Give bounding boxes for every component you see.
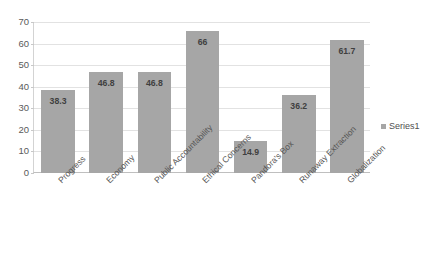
y-axis-tick-label: 70 — [3, 17, 29, 27]
y-axis-tick-label: 30 — [3, 103, 29, 113]
bar-slot: 46.8 — [138, 22, 172, 173]
chart-legend: Series1 — [381, 121, 420, 131]
x-axis-labels: ProgressEconomyPublic AccountabilityEthi… — [34, 174, 370, 259]
legend-square-icon — [381, 124, 386, 129]
bar-slot: 46.8 — [89, 22, 123, 173]
x-axis-label-slot: Runaway Extraction — [275, 174, 323, 259]
bar-value-label: 66 — [186, 37, 220, 47]
bar-slot: 38.3 — [41, 22, 75, 173]
x-axis-label-slot: Ethical Concerns — [178, 174, 226, 259]
y-axis-tick-label: 50 — [3, 60, 29, 70]
bar-value-label: 36.2 — [282, 101, 316, 111]
bar-value-label: 61.7 — [330, 46, 364, 56]
bar-value-label: 46.8 — [89, 78, 123, 88]
legend-entry-label[interactable]: Series1 — [389, 121, 420, 131]
y-axis-tick-label: 10 — [3, 146, 29, 156]
x-axis-label-slot: Pandora's Box — [227, 174, 275, 259]
y-axis-tick-label: 20 — [3, 125, 29, 135]
bar-chart: 706050403020100 38.346.846.86614.936.261… — [0, 0, 431, 259]
y-axis-labels: 706050403020100 — [0, 22, 29, 173]
x-axis-label-slot: Progress — [34, 174, 82, 259]
y-axis-tick-label: 40 — [3, 82, 29, 92]
x-axis-label-slot: Public Accountability — [130, 174, 178, 259]
y-axis-tick-label: 60 — [3, 39, 29, 49]
x-axis-label-slot: Globalization — [323, 174, 371, 259]
bar-value-label: 38.3 — [41, 96, 75, 106]
y-axis-tick-label: 0 — [3, 168, 29, 178]
bar-value-label: 46.8 — [138, 78, 172, 88]
x-axis-label-slot: Economy — [82, 174, 130, 259]
bars-layer: 38.346.846.86614.936.261.7 — [34, 22, 370, 173]
